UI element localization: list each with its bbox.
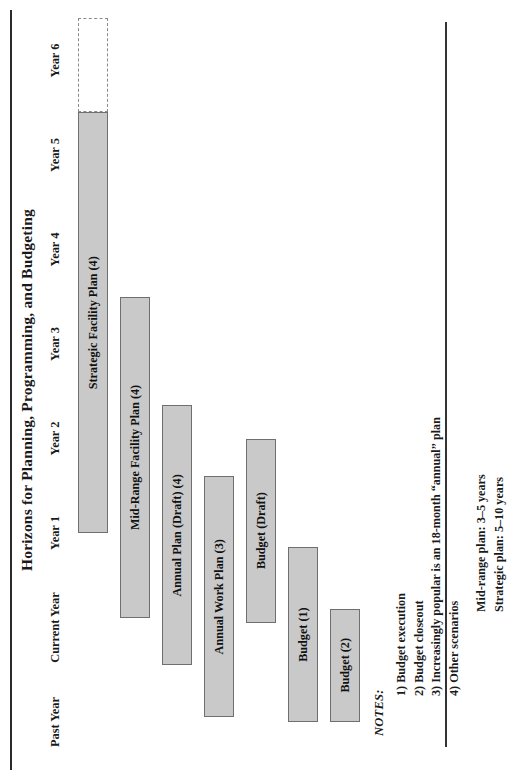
axis-tick-past-year: Past Year: [48, 697, 63, 747]
bottom-rule: [445, 22, 447, 747]
timeline-bar-label: Annual Work Plan (3): [212, 539, 227, 654]
axis-tick-year-5: Year 5: [48, 138, 63, 172]
notes-heading: NOTES:: [372, 689, 387, 736]
timeline-bar-budget-draft[interactable]: Budget (Draft): [246, 439, 276, 623]
timeline-bar-label: Annual Plan (Draft) (4): [170, 474, 185, 596]
timeline-bar-mid-range-facility-plan-4[interactable]: Mid-Range Facility Plan (4): [120, 297, 150, 618]
scenario-line-1: Mid-range plan: 3–5 years: [474, 474, 489, 612]
axis-tick-year-4: Year 4: [48, 233, 63, 267]
timeline-bar-label: Strategic Facility Plan (4): [86, 256, 101, 389]
axis-tick-year-1: Year 1: [48, 516, 63, 550]
axis-tick-year-3: Year 3: [48, 327, 63, 361]
timeline-bar-label: Mid-Range Facility Plan (4): [128, 385, 143, 530]
timeline-bar-label: Budget (2): [338, 638, 353, 693]
note-item-4: 4) Other scenarios: [447, 601, 462, 696]
timeline-bar-budget-2[interactable]: Budget (2): [330, 609, 360, 722]
top-rule: [10, 10, 12, 770]
axis-tick-current-year: Current Year: [48, 592, 63, 663]
axis-tick-year-2: Year 2: [48, 422, 63, 456]
timeline-bar-strategic-facility-plan-4-extension[interactable]: [78, 18, 108, 113]
scenario-line-2: Strategic plan: 5–10 years: [492, 477, 507, 612]
timeline-bar-label: Budget (Draft): [254, 492, 269, 569]
note-item-3: 3) Increasingly popular is an 18-month “…: [429, 417, 444, 696]
year-axis: Past YearCurrent YearYear 1Year 2Year 3Y…: [48, 0, 70, 780]
axis-tick-year-6: Year 6: [48, 44, 63, 78]
timeline-bar-strategic-facility-plan-4[interactable]: Strategic Facility Plan (4): [78, 112, 108, 533]
timeline-bar-annual-plan-draft-4[interactable]: Annual Plan (Draft) (4): [162, 405, 192, 665]
timeline-bar-annual-work-plan-3[interactable]: Annual Work Plan (3): [204, 476, 234, 717]
timeline-bar-label: Budget (1): [296, 607, 311, 662]
timeline-bar-budget-1[interactable]: Budget (1): [288, 547, 318, 722]
timeline-bars: Strategic Facility Plan (4)Mid-Range Fac…: [74, 0, 374, 780]
note-item-1: 1) Budget execution: [394, 593, 409, 696]
figure-title: Horizons for Planning, Programming, and …: [18, 0, 36, 780]
note-item-2: 2) Budget closeout: [412, 601, 427, 696]
